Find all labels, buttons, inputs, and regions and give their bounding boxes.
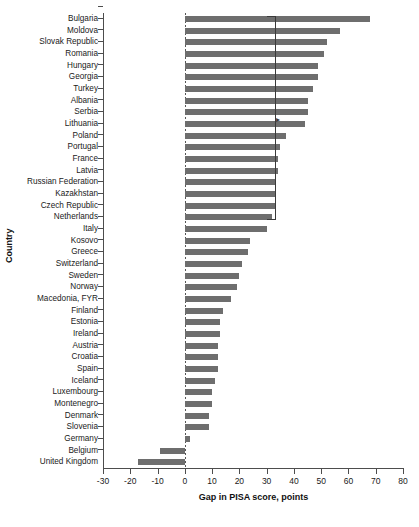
bar (185, 203, 275, 209)
y-axis-tick-label: Montenegro (54, 400, 98, 408)
y-axis-tick (98, 53, 103, 54)
marker-arrow-annotation: ▸ (276, 116, 280, 124)
y-axis-tick-label: Norway (70, 283, 98, 291)
y-axis-tick (98, 286, 103, 287)
y-axis-tick (98, 391, 103, 392)
x-axis-tick (158, 469, 159, 474)
bar (185, 74, 319, 80)
y-axis-tick-label: Bulgaria (68, 15, 98, 23)
y-axis-tick (98, 274, 103, 275)
bar (185, 63, 319, 69)
bar (185, 424, 210, 430)
y-axis-tick-label: Ireland (73, 330, 98, 338)
y-axis-tick-label: Luxembourg (52, 388, 98, 396)
y-axis-tick-label: Portugal (68, 143, 99, 151)
x-axis-tick (267, 469, 268, 474)
bar (185, 39, 327, 45)
bar (185, 366, 218, 372)
x-axis-line (103, 468, 404, 469)
y-axis-tick (98, 356, 103, 357)
y-axis-tick-label: Greece (71, 248, 98, 256)
y-axis-tick-label: France (73, 155, 98, 163)
x-axis-title: Gap in PISA score, points (103, 492, 404, 502)
y-axis-tick (98, 368, 103, 369)
y-axis-tick (98, 41, 103, 42)
bar (138, 459, 184, 465)
y-axis-tick (98, 146, 103, 147)
y-axis-tick-label: Netherlands (54, 213, 98, 221)
y-axis-tick-label: Estonia (71, 318, 98, 326)
y-axis-tick (98, 251, 103, 252)
y-axis-tick-label: Moldova (67, 27, 98, 35)
y-axis-tick (98, 379, 103, 380)
x-axis-tick (212, 469, 213, 474)
y-axis-tick (98, 449, 103, 450)
x-axis-tick (185, 469, 186, 474)
y-axis-tick-label: Denmark (65, 412, 98, 420)
pisa-gap-bar-chart: BulgariaMoldovaSlovak RepublicRomaniaHun… (0, 0, 419, 527)
bar (185, 28, 340, 34)
bar (185, 389, 212, 395)
bar (185, 284, 237, 290)
bar (185, 51, 324, 57)
bar (185, 261, 242, 267)
y-axis-tick (98, 6, 103, 7)
x-axis-tick (376, 469, 377, 474)
y-axis-tick-label: Czech Republic (41, 202, 98, 210)
y-axis-tick (98, 228, 103, 229)
bar (185, 214, 272, 220)
y-axis-tick (98, 134, 103, 135)
y-axis-tick-label: Macedonia, FYR (37, 295, 98, 303)
y-axis-tick (98, 204, 103, 205)
y-axis-tick (98, 309, 103, 310)
x-axis-tick (321, 469, 322, 474)
y-axis-tick (98, 333, 103, 334)
bar (185, 401, 212, 407)
y-axis-tick-label: Italy (83, 225, 98, 233)
bar (185, 98, 308, 104)
y-axis-tick-label: Albania (71, 97, 98, 105)
bar (185, 273, 240, 279)
bar (185, 16, 370, 22)
y-axis-tick (98, 158, 103, 159)
bar (185, 179, 275, 185)
y-axis-tick-label: Belgium (68, 447, 98, 455)
bar (185, 331, 220, 337)
y-axis-tick (98, 193, 103, 194)
y-axis-title: Country (4, 229, 14, 264)
y-axis-tick-label: Croatia (72, 353, 98, 361)
y-axis-tick (98, 263, 103, 264)
y-axis-tick-label: Russian Federation (27, 178, 98, 186)
bar (160, 448, 185, 454)
y-axis-tick (98, 123, 103, 124)
x-axis-tick-label: 80 (383, 476, 419, 486)
plot-area: ▸ (103, 13, 403, 468)
y-axis-category-labels: BulgariaMoldovaSlovak RepublicRomaniaHun… (0, 13, 98, 468)
bar (185, 144, 280, 150)
y-axis-tick-label: Germany (64, 435, 98, 443)
bar (185, 436, 190, 442)
y-axis-tick (98, 29, 103, 30)
y-axis-tick-label: Turkey (73, 85, 98, 93)
y-axis-tick-label: Switzerland (56, 260, 98, 268)
y-axis-tick-label: Poland (73, 132, 99, 140)
y-axis-tick (98, 298, 103, 299)
bar (185, 109, 308, 115)
y-axis-tick (98, 88, 103, 89)
bar (185, 86, 313, 92)
bar (185, 354, 218, 360)
x-axis-tick (294, 469, 295, 474)
y-axis-tick (98, 239, 103, 240)
y-axis-tick-label: Iceland (72, 377, 98, 385)
y-axis-tick (98, 99, 103, 100)
x-axis-tick (103, 469, 104, 474)
bar (185, 226, 267, 232)
y-axis-line (103, 13, 104, 469)
y-axis-tick (98, 438, 103, 439)
bar (185, 413, 210, 419)
y-axis-tick (98, 111, 103, 112)
y-axis-tick (98, 76, 103, 77)
y-axis-tick (98, 426, 103, 427)
y-axis-tick (98, 169, 103, 170)
bar (185, 296, 231, 302)
